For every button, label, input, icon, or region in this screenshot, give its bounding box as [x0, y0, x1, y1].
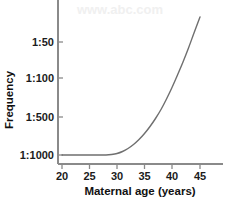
frequency-curve: [62, 17, 200, 155]
y-tick-label-1-500: 1:500: [26, 111, 54, 123]
y-axis-title: Frequency: [3, 70, 15, 129]
y-tick-label-1-100: 1:100: [26, 72, 54, 84]
x-tick-label-45: 45: [194, 170, 206, 182]
chart-figure: www.abc.com 1:50 1:100 1:500 1:1000 20 2…: [0, 0, 228, 200]
x-tick-label-40: 40: [166, 170, 178, 182]
frequency-vs-maternal-age-chart: www.abc.com 1:50 1:100 1:500 1:1000 20 2…: [0, 0, 228, 200]
x-tick-label-30: 30: [111, 170, 123, 182]
y-tick-label-1-1000: 1:1000: [20, 149, 54, 161]
x-tick-label-35: 35: [138, 170, 150, 182]
y-tick-label-1-50: 1:50: [32, 36, 54, 48]
x-tick-label-25: 25: [83, 170, 95, 182]
x-axis-title: Maternal age (years): [84, 185, 195, 197]
watermark-text: www.abc.com: [76, 2, 163, 17]
x-tick-label-20: 20: [56, 170, 68, 182]
